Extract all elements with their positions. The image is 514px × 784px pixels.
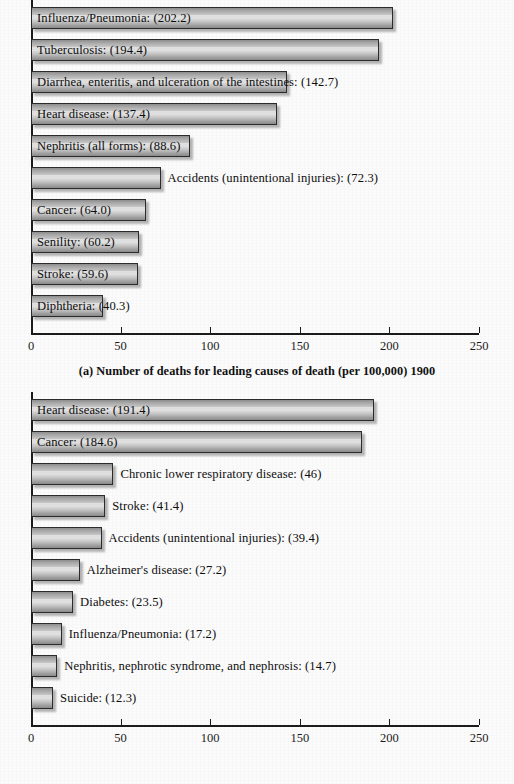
x-axis-tick [300, 327, 301, 333]
bar [31, 167, 161, 189]
bar-label: Accidents (unintentional injuries): (72.… [168, 167, 379, 189]
bar-label: Diabetes: (23.5) [80, 591, 163, 613]
bar-label: Influenza/Pneumonia: (17.2) [69, 623, 217, 645]
bar-chart-1900: Influenza/Pneumonia: (202.2)Tuberculosis… [0, 0, 514, 350]
bar-highlight [32, 503, 104, 507]
x-axis-tick-label: 250 [470, 339, 489, 353]
x-axis-tick [210, 719, 211, 725]
x-axis-tick [389, 719, 390, 725]
bar-highlight [32, 535, 101, 539]
bar-highlight [32, 695, 52, 699]
figure-a-caption: (a) Number of deaths for leading causes … [0, 364, 514, 379]
x-axis-tick-label: 0 [28, 339, 34, 353]
x-axis-tick [389, 327, 390, 333]
figure-b: Heart disease: (191.4)Cancer: (184.6)Chr… [0, 392, 514, 784]
x-axis-tick-label: 250 [470, 731, 489, 745]
bar [31, 559, 80, 581]
bar-label: Heart disease: (191.4) [37, 399, 150, 421]
x-axis-tick-label: 150 [290, 731, 309, 745]
bar [31, 623, 62, 645]
bar-label: Suicide: (12.3) [60, 687, 136, 709]
bar-label: Diarrhea, enteritis, and ulceration of t… [37, 71, 338, 93]
bar-label: Diphtheria: (40.3) [37, 295, 130, 317]
x-axis-tick-label: 200 [380, 731, 399, 745]
x-axis-tick-label: 100 [201, 731, 220, 745]
bar-label: Alzheimer's disease: (27.2) [87, 559, 227, 581]
bar-label: Chronic lower respiratory disease: (46) [120, 463, 321, 485]
bar-label: Nephritis, nephrotic syndrome, and nephr… [64, 655, 336, 677]
x-axis-tick [121, 327, 122, 333]
bar [31, 655, 57, 677]
x-axis-tick-label: 50 [114, 339, 127, 353]
bar-label: Accidents (unintentional injuries): (39.… [109, 527, 320, 549]
figure-a: Influenza/Pneumonia: (202.2)Tuberculosis… [0, 0, 514, 392]
x-axis-tick-label: 50 [114, 731, 127, 745]
bar-highlight [32, 471, 112, 475]
x-axis-tick-label: 150 [290, 339, 309, 353]
bar-label: Stroke: (41.4) [112, 495, 183, 517]
bar-highlight [32, 599, 72, 603]
x-axis-tick [210, 327, 211, 333]
bar-label: Senility: (60.2) [37, 231, 115, 253]
x-axis-tick [479, 327, 480, 333]
bar-label: Influenza/Pneumonia: (202.2) [37, 7, 191, 29]
bar-label: Heart disease: (137.4) [37, 103, 150, 125]
bar [31, 495, 105, 517]
bar-highlight [32, 663, 56, 667]
x-axis-tick [300, 719, 301, 725]
bar [31, 687, 53, 709]
bar-label: Stroke: (59.6) [37, 263, 108, 285]
bar-label: Nephritis (all forms): (88.6) [37, 135, 181, 157]
x-axis-tick-label: 0 [28, 731, 34, 745]
bar [31, 527, 102, 549]
bar-highlight [32, 567, 79, 571]
x-axis-tick-label: 100 [201, 339, 220, 353]
x-axis-tick-label: 200 [380, 339, 399, 353]
bar-label: Cancer: (64.0) [37, 199, 111, 221]
x-axis-tick [121, 719, 122, 725]
x-axis [31, 725, 479, 727]
bar-label: Tuberculosis: (194.4) [37, 39, 147, 61]
bar-highlight [32, 175, 160, 179]
x-axis-tick [479, 719, 480, 725]
x-axis [31, 333, 479, 335]
bar [31, 463, 113, 485]
bar [31, 591, 73, 613]
bar-label: Cancer: (184.6) [37, 431, 118, 453]
bar-highlight [32, 631, 61, 635]
bar-chart-2011: Heart disease: (191.4)Cancer: (184.6)Chr… [0, 392, 514, 742]
